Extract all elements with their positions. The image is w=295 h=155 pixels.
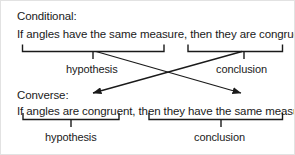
conditional-hypothesis-label: hypothesis [66,64,118,75]
bracket-conditional-hypothesis [23,45,165,52]
conditional-conclusion-label: conclusion [216,64,267,75]
converse-conclusion-label: conclusion [194,132,245,143]
bracket-conditional-conclusion [188,45,283,52]
conditional-heading: Conditional: [17,11,77,23]
conditional-converse-diagram: Conditional: If angles have the same mea… [0,0,295,155]
converse-statement-text: If angles are congruent, then they have … [17,106,295,118]
conditional-statement-text: If angles have the same measure, then th… [17,29,295,41]
converse-heading: Converse: [17,90,69,102]
converse-hypothesis-label: hypothesis [45,132,97,143]
